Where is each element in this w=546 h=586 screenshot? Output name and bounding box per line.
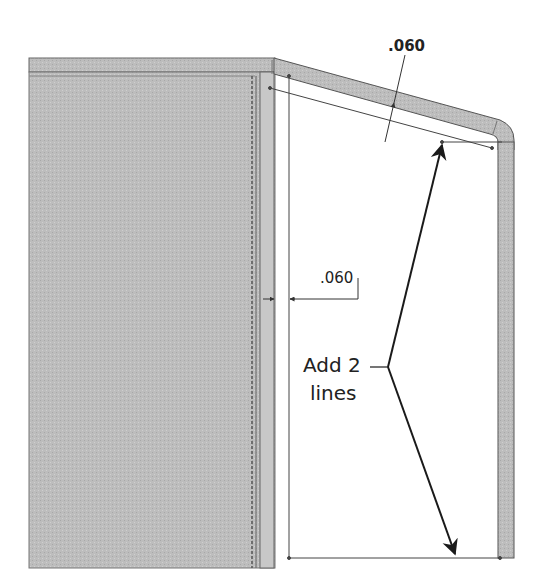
right-flange [498,142,514,558]
dimension-side: .060 [263,269,358,299]
dimension-top-label: .060 [388,37,425,55]
sketch-lines [269,75,503,560]
add-lines-callout: Add 2 lines [303,145,455,554]
dimension-top: .060 [385,37,425,142]
callout-text-line2: lines [310,381,357,405]
left-panel [29,58,275,568]
dimension-side-label: .060 [320,269,353,287]
arrow-up [388,145,442,367]
callout-text-line1: Add 2 [303,353,361,377]
sheet-metal-drawing: .060 .060 Add 2 lines [0,0,546,586]
arrow-down [388,367,455,554]
top-flange [272,58,514,150]
